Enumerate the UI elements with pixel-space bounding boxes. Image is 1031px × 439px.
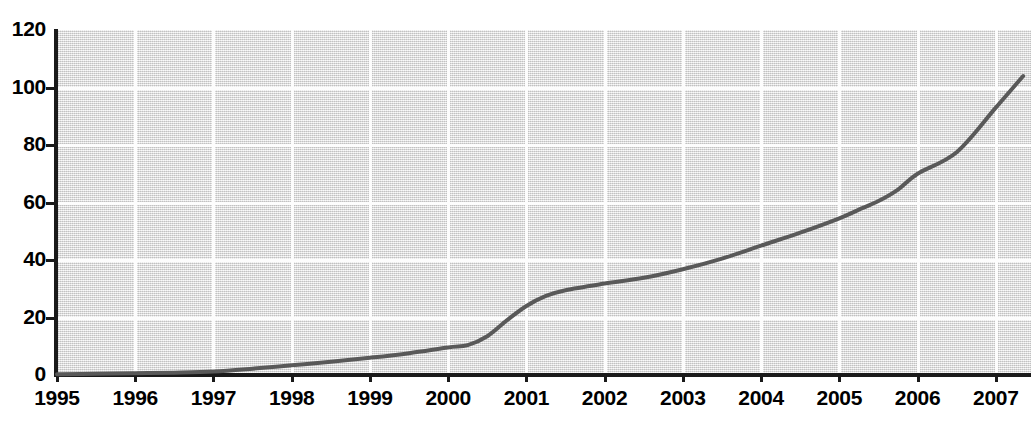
x-axis-tick — [447, 373, 450, 382]
x-axis-tick — [604, 373, 607, 382]
x-axis-tick-label: 2006 — [878, 386, 958, 410]
x-axis-tick-label: 2001 — [486, 386, 566, 410]
y-axis-tick-label: 20 — [0, 305, 46, 329]
x-axis-tick — [917, 373, 920, 382]
y-axis-tick-label: 80 — [0, 132, 46, 156]
gridline-vertical — [838, 30, 841, 375]
gridline-horizontal — [57, 87, 1031, 90]
gridline-vertical — [917, 30, 920, 375]
gridline-vertical — [447, 30, 450, 375]
x-axis-tick — [682, 373, 685, 382]
y-axis-tick-label: 40 — [0, 247, 46, 271]
gridline-vertical — [682, 30, 685, 375]
x-axis-tick — [760, 373, 763, 382]
x-axis-line — [54, 373, 1031, 377]
gridline-horizontal — [57, 202, 1031, 205]
gridline-vertical — [369, 30, 372, 375]
gridline-vertical — [212, 30, 215, 375]
x-axis-tick — [212, 373, 215, 382]
x-axis-tick-label: 1998 — [252, 386, 332, 410]
gridline-vertical — [134, 30, 137, 375]
gridline-vertical — [291, 30, 294, 375]
gridline-vertical — [760, 30, 763, 375]
y-axis-tick — [46, 87, 57, 90]
y-axis-tick-label: 60 — [0, 190, 46, 214]
gridline-horizontal — [57, 144, 1031, 147]
x-axis-tick — [291, 373, 294, 382]
y-axis-tick — [46, 144, 57, 147]
x-axis-tick — [525, 373, 528, 382]
x-axis-tick — [134, 373, 137, 382]
x-axis-tick — [56, 373, 59, 382]
x-axis-tick-label: 1996 — [95, 386, 175, 410]
gridline-horizontal — [57, 259, 1031, 262]
y-axis-tick-label: 100 — [0, 75, 46, 99]
gridline-vertical — [604, 30, 607, 375]
plot-area — [57, 30, 1031, 375]
x-axis-tick-label: 1995 — [17, 386, 97, 410]
x-axis-tick-label: 2004 — [721, 386, 801, 410]
x-axis-tick — [369, 373, 372, 382]
x-axis-tick — [995, 373, 998, 382]
x-axis-tick-label: 2003 — [643, 386, 723, 410]
x-axis-tick-label: 2007 — [956, 386, 1031, 410]
y-axis-tick — [46, 202, 57, 205]
gridline-vertical — [995, 30, 998, 375]
x-axis-tick — [838, 373, 841, 382]
x-axis-tick-label: 1997 — [173, 386, 253, 410]
y-axis-tick — [46, 317, 57, 320]
gridline-horizontal — [57, 317, 1031, 320]
y-axis-tick-label: 120 — [0, 17, 46, 41]
x-axis-tick-label: 2000 — [408, 386, 488, 410]
y-axis-tick — [46, 259, 57, 262]
y-axis-tick-label: 0 — [0, 362, 46, 386]
x-axis-tick-label: 1999 — [330, 386, 410, 410]
x-axis-tick-label: 2002 — [565, 386, 645, 410]
gridline-vertical — [525, 30, 528, 375]
line-chart: 020406080100120 199519961997199819992000… — [0, 0, 1031, 439]
x-axis-tick-label: 2005 — [799, 386, 879, 410]
